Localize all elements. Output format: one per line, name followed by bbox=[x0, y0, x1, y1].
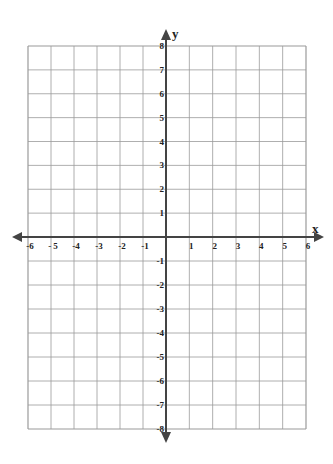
y-tick-label: 8 bbox=[160, 41, 165, 51]
x-axis-label: x bbox=[312, 221, 319, 236]
y-tick-label: 4 bbox=[160, 137, 165, 147]
x-tick-label: -6 bbox=[26, 241, 34, 251]
coordinate-plane: x y -6- 5-4-3-2-1123456 87654321-1-2-3-4… bbox=[0, 0, 333, 464]
y-tick-label: 2 bbox=[160, 184, 165, 194]
x-tick-label: - 5 bbox=[48, 241, 58, 251]
y-tick-label: -6 bbox=[157, 376, 165, 386]
y-tick-label: 1 bbox=[160, 208, 165, 218]
y-tick-label: -5 bbox=[157, 352, 165, 362]
y-axis-up-arrow-icon bbox=[161, 29, 171, 40]
y-tick-label: 5 bbox=[160, 113, 165, 123]
x-tick-label: 1 bbox=[189, 241, 194, 251]
y-tick-label: 7 bbox=[160, 65, 165, 75]
y-tick-label: -4 bbox=[157, 328, 165, 338]
x-tick-label: 2 bbox=[212, 241, 217, 251]
axes: x y bbox=[12, 26, 324, 443]
y-tick-label: 6 bbox=[160, 89, 165, 99]
y-axis-label: y bbox=[172, 26, 179, 41]
x-tick-label: 5 bbox=[282, 241, 287, 251]
y-tick-label: 3 bbox=[160, 160, 165, 170]
x-tick-label: 6 bbox=[306, 241, 311, 251]
x-tick-label: -4 bbox=[72, 241, 80, 251]
y-tick-label: -2 bbox=[157, 280, 165, 290]
y-tick-label: -7 bbox=[157, 400, 165, 410]
y-tick-label: -3 bbox=[157, 304, 165, 314]
x-tick-labels: -6- 5-4-3-2-1123456 bbox=[26, 241, 311, 251]
x-axis-left-arrow-icon bbox=[12, 232, 22, 242]
x-tick-label: 4 bbox=[259, 241, 264, 251]
x-tick-label: 3 bbox=[236, 241, 241, 251]
y-tick-label: -1 bbox=[157, 256, 165, 266]
x-tick-label: -1 bbox=[141, 241, 149, 251]
y-tick-label: -8 bbox=[157, 424, 165, 434]
x-tick-label: -3 bbox=[95, 241, 103, 251]
x-tick-label: -2 bbox=[118, 241, 126, 251]
